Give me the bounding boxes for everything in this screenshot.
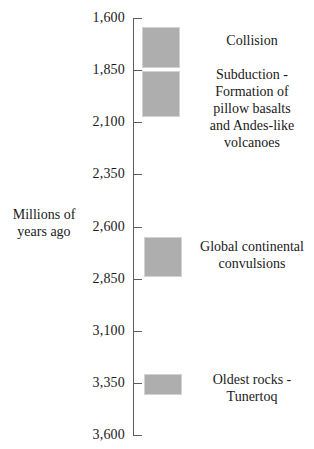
event-label-line: Formation of (190, 83, 314, 100)
y-tick-label: 1,850 (67, 63, 125, 77)
y-tick-mark-1850 (134, 70, 142, 71)
event-label-oldest-rocks: Oldest rocks - Tunertoq (190, 371, 314, 405)
y-axis-title-line: years ago (4, 223, 84, 240)
event-label-line: and Andes-like (190, 117, 314, 134)
event-label-global-continental-convulsions: Global continental convulsions (190, 238, 314, 272)
event-bar-global-continental-convulsions (144, 237, 182, 277)
event-label-line: Global continental (190, 238, 314, 255)
y-tick-2350: 2,350 (0, 167, 125, 181)
y-tick-label: 3,100 (67, 324, 125, 338)
y-tick-2850: 2,850 (0, 272, 125, 286)
event-bar-subduction (142, 71, 180, 117)
y-tick-mark-3100 (134, 331, 142, 332)
event-label-line: pillow basalts (190, 100, 314, 117)
event-label-line: Tunertoq (190, 388, 314, 405)
y-tick-3350: 3,350 (0, 376, 125, 390)
y-tick-label: 2,350 (67, 167, 125, 181)
event-label-line: Collision (190, 32, 314, 49)
y-tick-label: 3,350 (67, 376, 125, 390)
event-label-line: Subduction - (190, 66, 314, 83)
y-axis-bottom-cap (133, 435, 142, 436)
y-tick-mark-3350 (134, 383, 142, 384)
event-bar-collision (142, 27, 180, 68)
y-tick-mark-1600 (134, 18, 142, 19)
event-label-line: convulsions (190, 255, 314, 272)
y-tick-mark-2350 (134, 174, 142, 175)
y-tick-label: 3,600 (67, 428, 125, 442)
y-tick-mark-2600 (134, 227, 142, 228)
geologic-timeline-chart: 1,600 1,850 2,100 2,350 2,600 2,850 3,10… (0, 0, 314, 449)
event-label-line: volcanoes (190, 134, 314, 151)
y-tick-1600: 1,600 (0, 11, 125, 25)
y-tick-3100: 3,100 (0, 324, 125, 338)
y-tick-3600: 3,600 (0, 428, 125, 442)
event-label-line: Oldest rocks - (190, 371, 314, 388)
y-tick-label: 2,100 (67, 115, 125, 129)
y-axis-title: Millions of years ago (4, 206, 84, 240)
y-tick-2100: 2,100 (0, 115, 125, 129)
y-tick-mark-2100 (134, 122, 142, 123)
y-axis-title-line: Millions of (4, 206, 84, 223)
y-tick-label: 1,600 (67, 11, 125, 25)
y-tick-label: 2,850 (67, 272, 125, 286)
y-tick-1850: 1,850 (0, 63, 125, 77)
y-tick-mark-2850 (134, 279, 142, 280)
event-label-subduction: Subduction - Formation of pillow basalts… (190, 66, 314, 151)
event-bar-oldest-rocks (144, 374, 182, 395)
event-label-collision: Collision (190, 32, 314, 49)
